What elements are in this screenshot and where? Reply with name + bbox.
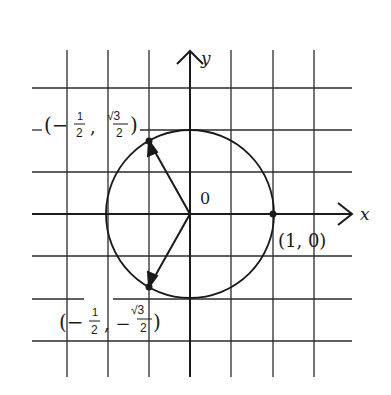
svg-text:(−: (− <box>44 113 69 137</box>
svg-text:2: 2 <box>140 321 147 335</box>
svg-text:): ) <box>130 113 138 137</box>
point-1-0-dot <box>270 211 277 218</box>
point-lower-dot <box>146 284 153 291</box>
svg-text:2: 2 <box>91 323 98 337</box>
point-upper-label: (− 1 2 , √3 2 ) <box>44 109 138 140</box>
svg-text:(−: (− <box>59 310 84 334</box>
svg-text:1: 1 <box>92 306 98 318</box>
svg-text:√3: √3 <box>131 303 145 317</box>
svg-text:√3: √3 <box>107 109 121 123</box>
svg-text:2: 2 <box>76 126 83 140</box>
unit-circle-diagram: x y 0 (1, 0) (− 1 2 , √3 2 ) (− 1 2 , − … <box>0 0 391 395</box>
svg-text:,: , <box>90 116 96 137</box>
svg-text:, −: , − <box>104 313 131 334</box>
point-lower-label: (− 1 2 , − √3 2 ) <box>59 303 161 337</box>
vector-upper <box>150 143 190 214</box>
origin-label: 0 <box>200 189 210 208</box>
x-axis-label: x <box>360 204 370 224</box>
point-1-0-label: (1, 0) <box>278 230 326 251</box>
vector-lower <box>150 214 190 285</box>
y-axis-label: y <box>200 48 211 68</box>
point-upper-dot <box>146 138 153 145</box>
svg-text:2: 2 <box>116 126 123 140</box>
svg-text:1: 1 <box>77 110 83 122</box>
svg-text:): ) <box>153 310 161 334</box>
